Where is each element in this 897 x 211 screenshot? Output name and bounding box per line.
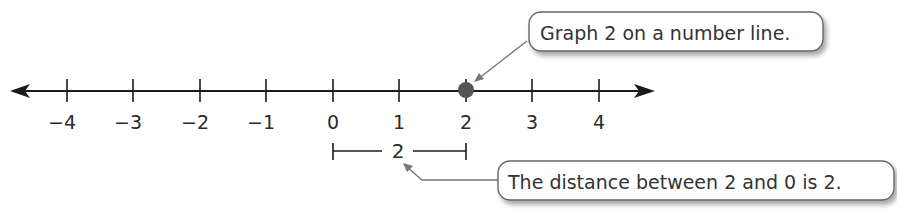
plotted-point-2 (458, 82, 474, 98)
tick-label: −3 (114, 111, 142, 133)
number-line-diagram: −4 −3 −2 −1 0 1 2 3 4 2 Graph 2 on a num… (0, 0, 897, 211)
arrow-head-icon (474, 73, 484, 82)
tick-labels: −4 −3 −2 −1 0 1 2 3 4 (48, 111, 605, 133)
callout-bottom-text: The distance between 2 and 0 is 2. (507, 171, 842, 193)
tick-label: 2 (460, 111, 472, 133)
tick-label: −1 (247, 111, 275, 133)
callout-top: Graph 2 on a number line. (474, 12, 823, 82)
callout-bottom: The distance between 2 and 0 is 2. (403, 161, 894, 200)
tick-label: 3 (526, 111, 538, 133)
tick-label: −2 (181, 111, 209, 133)
tick-label: −4 (48, 111, 76, 133)
distance-bracket-label: 2 (392, 139, 405, 163)
tick-label: 4 (593, 111, 605, 133)
tick-label: 0 (327, 111, 339, 133)
callout-top-text: Graph 2 on a number line. (540, 22, 790, 44)
tick-label: 1 (393, 111, 405, 133)
